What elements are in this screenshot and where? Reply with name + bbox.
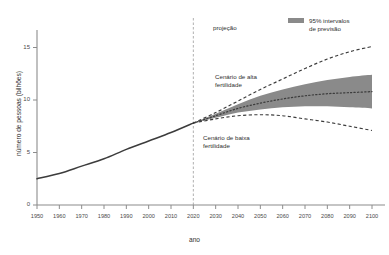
y-tick-label-10: 10 bbox=[16, 96, 30, 102]
y-tick-label-5: 5 bbox=[16, 149, 30, 155]
legend: 95% intervalosde previsão bbox=[288, 17, 350, 33]
x-tick-label-1960: 1960 bbox=[47, 213, 71, 219]
x-tick-label-1950: 1950 bbox=[25, 213, 49, 219]
x-tick-label-2040: 2040 bbox=[226, 213, 250, 219]
legend-swatch-prediction-interval bbox=[288, 18, 304, 23]
x-tick-label-2100: 2100 bbox=[360, 213, 384, 219]
x-tick-label-2020: 2020 bbox=[181, 213, 205, 219]
x-tick-label-2090: 2090 bbox=[338, 213, 362, 219]
annotation-baixa-line1: Cenário de baixa bbox=[203, 134, 250, 141]
x-tick-label-1970: 1970 bbox=[70, 213, 94, 219]
legend-label-prediction-interval: 95% intervalosde previsão bbox=[309, 17, 350, 33]
annotation-projecao: projeção bbox=[213, 24, 237, 32]
x-axis-title: ano bbox=[0, 236, 389, 243]
annotation-alta-fertilidade: Cenário de altafertilidade bbox=[215, 73, 257, 88]
x-tick-label-2050: 2050 bbox=[248, 213, 272, 219]
x-tick-label-2060: 2060 bbox=[271, 213, 295, 219]
population-projection-chart: projeção Cenário de altafertilidade Cená… bbox=[0, 0, 389, 255]
y-tick-label-15: 15 bbox=[16, 44, 30, 50]
annotation-alta-line1: Cenário de alta bbox=[215, 73, 257, 80]
annotation-baixa-fertilidade: Cenário de baixafertilidade bbox=[203, 134, 250, 149]
annotation-alta-line2: fertilidade bbox=[215, 81, 242, 88]
x-tick-label-1980: 1980 bbox=[92, 213, 116, 219]
y-axis-title: número de pessoas (bilhões) bbox=[15, 34, 22, 194]
legend-label-line1: 95% intervalos bbox=[309, 17, 350, 24]
x-tick-label-2070: 2070 bbox=[293, 213, 317, 219]
y-tick-label-0: 0 bbox=[16, 201, 30, 207]
x-tick-label-2080: 2080 bbox=[315, 213, 339, 219]
x-tick-label-2010: 2010 bbox=[159, 213, 183, 219]
annotation-baixa-line2: fertilidade bbox=[203, 142, 230, 149]
x-tick-label-1990: 1990 bbox=[114, 213, 138, 219]
x-tick-label-2000: 2000 bbox=[137, 213, 161, 219]
legend-label-line2: de previsão bbox=[309, 25, 341, 32]
x-tick-label-2030: 2030 bbox=[204, 213, 228, 219]
